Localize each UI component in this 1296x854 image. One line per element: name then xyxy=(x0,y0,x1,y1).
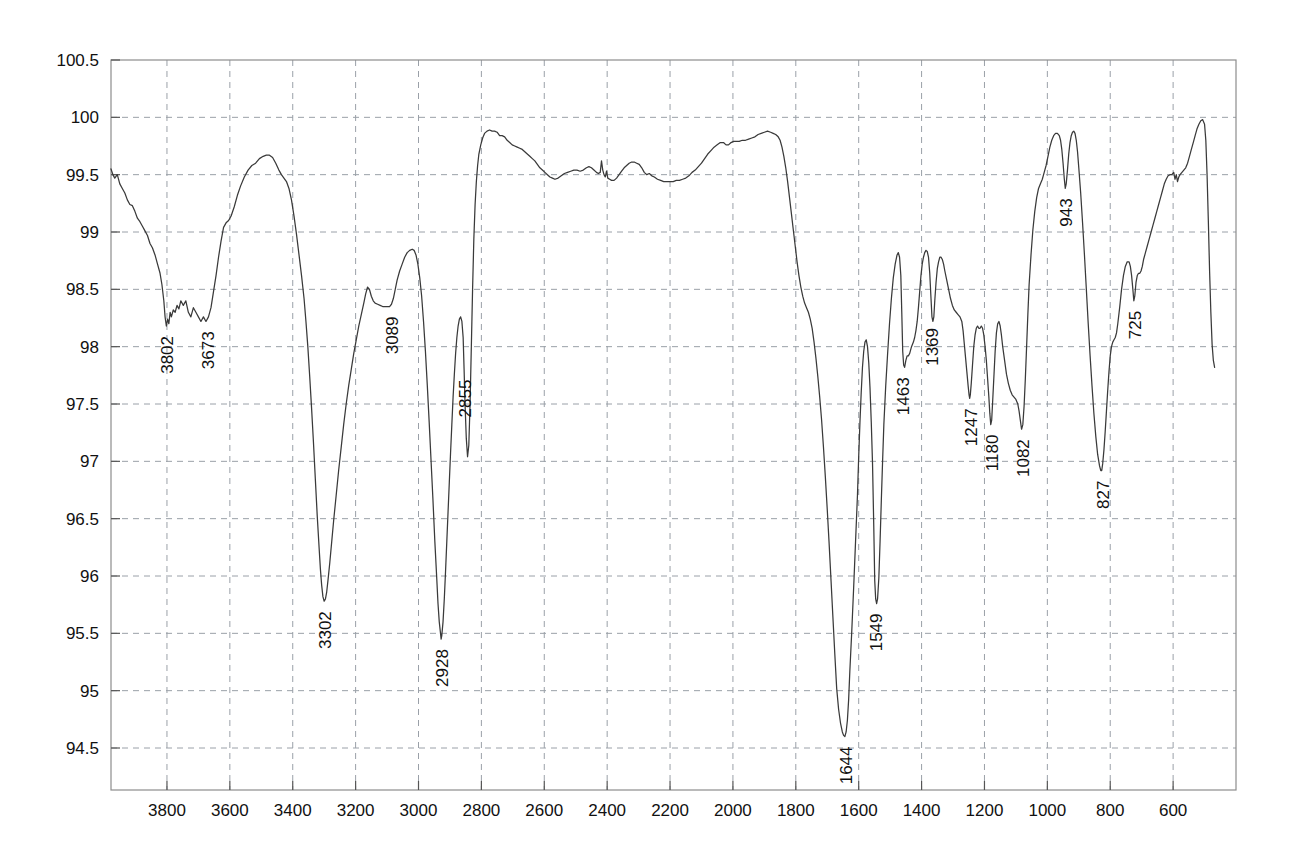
x-tick-label: 3200 xyxy=(337,801,375,820)
y-tick-label: 100 xyxy=(71,108,99,127)
x-tick-label: 1000 xyxy=(1028,801,1066,820)
x-tick-label: 3600 xyxy=(211,801,249,820)
x-tick-label: 2000 xyxy=(714,801,752,820)
x-tick-label: 2400 xyxy=(588,801,626,820)
y-tick-label: 96 xyxy=(80,567,99,586)
peak-label: 1180 xyxy=(983,435,1002,472)
y-tick-label: 95.5 xyxy=(66,624,99,643)
x-tick-label: 600 xyxy=(1159,801,1187,820)
peak-label: 3673 xyxy=(199,331,218,369)
y-tick-label: 97.5 xyxy=(66,395,99,414)
peak-label: 2855 xyxy=(456,380,475,418)
y-tick-label: 96.5 xyxy=(66,510,99,529)
y-tick-label: 97 xyxy=(80,452,99,471)
peak-label: 1082 xyxy=(1014,439,1033,477)
y-tick-label: 98.5 xyxy=(66,280,99,299)
y-tick-label: 99 xyxy=(80,223,99,242)
peak-label: 725 xyxy=(1126,311,1145,339)
peak-label: 2928 xyxy=(433,649,452,687)
peak-label: 3802 xyxy=(158,336,177,374)
peak-label: 3302 xyxy=(316,611,335,649)
x-tick-label: 1400 xyxy=(903,801,941,820)
x-tick-label: 2800 xyxy=(462,801,500,820)
spectrum-svg: 100.510099.59998.59897.59796.59695.59594… xyxy=(0,0,1296,854)
x-tick-label: 2600 xyxy=(525,801,563,820)
peak-label: 1644 xyxy=(837,747,856,785)
x-tick-label: 3800 xyxy=(148,801,186,820)
x-tick-label: 1800 xyxy=(777,801,815,820)
peak-label: 943 xyxy=(1057,198,1076,226)
x-tick-label: 1600 xyxy=(840,801,878,820)
y-tick-label: 94.5 xyxy=(66,739,99,758)
y-tick-label: 98 xyxy=(80,338,99,357)
peak-label: 1549 xyxy=(867,614,886,652)
x-tick-label: 1200 xyxy=(966,801,1004,820)
x-tick-label: 3000 xyxy=(400,801,438,820)
chart-background xyxy=(0,0,1296,854)
x-axis-tick-labels: 3800360034003200300028002600240022002000… xyxy=(148,801,1187,820)
x-tick-label: 800 xyxy=(1096,801,1124,820)
peak-label: 827 xyxy=(1094,481,1113,509)
y-tick-label: 99.5 xyxy=(66,166,99,185)
y-tick-label: 95 xyxy=(80,682,99,701)
peak-label: 1463 xyxy=(894,377,913,415)
peak-label: 3089 xyxy=(383,317,402,355)
ir-spectrum-chart: 100.510099.59998.59897.59796.59695.59594… xyxy=(0,0,1296,854)
x-tick-label: 2200 xyxy=(651,801,689,820)
peak-label: 1369 xyxy=(923,328,942,366)
y-tick-label: 100.5 xyxy=(56,51,99,70)
peak-label: 1247 xyxy=(962,408,981,446)
x-tick-label: 3400 xyxy=(274,801,312,820)
